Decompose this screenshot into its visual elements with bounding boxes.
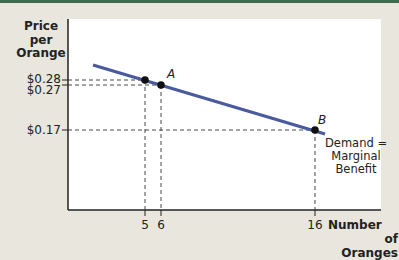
point-b	[311, 126, 319, 134]
y-title-line-1: Price	[14, 20, 68, 34]
y-title-line-2: per	[14, 34, 68, 48]
point-a-label: A	[167, 68, 175, 81]
y-tick-label-017: $0.17	[27, 124, 61, 137]
demand-curve	[93, 65, 325, 134]
demand-curve-label: Demand = Marginal Benefit	[320, 137, 392, 176]
x-tick-label-16: 16	[305, 219, 325, 232]
y-axis-title: Price per Orange	[14, 20, 68, 61]
y-title-line-3: Orange	[14, 47, 68, 61]
point-5-028	[141, 76, 149, 84]
x-tick-label-6: 6	[151, 219, 171, 232]
point-b-label: B	[318, 114, 326, 127]
y-tick-label-027: $0.27	[27, 84, 61, 97]
x-title-line-1: Number	[326, 218, 398, 232]
x-title-line-2: of Oranges	[326, 232, 398, 260]
curve-label-line-3: Benefit	[320, 163, 392, 176]
point-a	[157, 81, 165, 89]
x-axis-title: Number of Oranges	[326, 218, 398, 260]
